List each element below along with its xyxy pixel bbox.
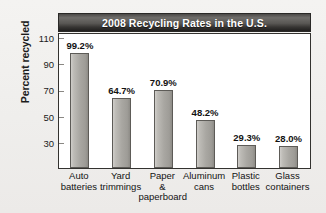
x-axis-category-label: Paper & paperboard: [138, 171, 186, 203]
bar: [112, 98, 131, 168]
bar-group: 99.2%: [70, 53, 89, 168]
bar-value-label: 64.7%: [108, 85, 135, 96]
x-axis-tick-labels: Auto batteriesYard trimmingsPaper & pape…: [58, 171, 311, 213]
x-axis-category-label: Aluminum cans: [180, 171, 228, 192]
y-axis-tick-mark: [59, 143, 64, 144]
y-axis-tick-labels: 11090705030: [30, 0, 54, 213]
y-axis-tick-label: 30: [30, 139, 54, 149]
y-axis-tick-mark: [59, 91, 64, 92]
chart-figure: Percent recycled 11090705030 2008 Recycl…: [0, 0, 326, 213]
bar-value-label: 29.3%: [233, 132, 260, 143]
bar: [237, 145, 256, 168]
bar-value-label: 48.2%: [192, 107, 219, 118]
bar-value-label: 70.9%: [150, 77, 177, 88]
bar: [154, 90, 173, 168]
plot-area: 99.2%64.7%70.9%48.2%29.3%28.0%: [58, 33, 311, 169]
bar: [70, 53, 89, 168]
chart-title-bar: 2008 Recycling Rates in the U.S.: [58, 13, 311, 32]
y-axis-tick-mark: [59, 38, 64, 39]
y-axis-tick-label: 50: [30, 113, 54, 123]
y-axis-tick-label: 70: [30, 86, 54, 96]
bar: [279, 146, 298, 168]
y-axis-tick-mark: [59, 64, 64, 65]
x-axis-category-label: Plastic bottles: [222, 171, 270, 192]
x-axis-category-label: Auto batteries: [55, 171, 103, 192]
y-axis-tick-mark: [59, 117, 64, 118]
bar-value-label: 28.0%: [275, 133, 302, 144]
bar-group: 29.3%: [237, 145, 256, 168]
bar-group: 48.2%: [196, 120, 215, 168]
y-axis-tick-label: 110: [30, 34, 54, 44]
bar-group: 70.9%: [154, 90, 173, 168]
x-axis-category-label: Yard trimmings: [97, 171, 145, 192]
x-axis-category-label: Glass containers: [264, 171, 312, 192]
bar: [196, 120, 215, 168]
y-axis-tick-label: 90: [30, 60, 54, 70]
bar-group: 28.0%: [279, 146, 298, 168]
chart-title: 2008 Recycling Rates in the U.S.: [102, 17, 267, 29]
plot-inner: 99.2%64.7%70.9%48.2%29.3%28.0%: [59, 34, 310, 168]
bar-group: 64.7%: [112, 98, 131, 168]
bar-value-label: 99.2%: [66, 40, 93, 51]
